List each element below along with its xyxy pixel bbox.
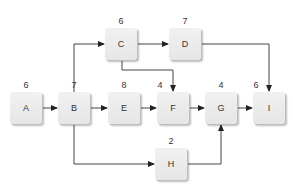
node-g: G [205,92,237,124]
edge-b-h [74,124,154,164]
duration-a: 6 [10,80,42,90]
edges-layer [0,0,293,189]
duration-d: 7 [169,16,201,26]
node-d: D [169,28,201,60]
edge-h-g [187,125,221,164]
activity-network-diagram: 6 7 6 7 8 4 4 2 6 A B C D E F G H I [0,0,293,189]
duration-b: 7 [58,80,90,90]
duration-h: 2 [155,136,187,146]
node-e: E [108,92,140,124]
node-h: H [155,148,187,180]
node-i: I [253,92,285,124]
node-c: C [105,28,137,60]
duration-c: 6 [105,16,137,26]
duration-g: 4 [205,80,237,90]
node-f: F [157,92,189,124]
node-a: A [10,92,42,124]
duration-f: 4 [150,80,170,90]
duration-e: 8 [108,80,140,90]
duration-i: 6 [246,80,266,90]
node-b: B [58,92,90,124]
